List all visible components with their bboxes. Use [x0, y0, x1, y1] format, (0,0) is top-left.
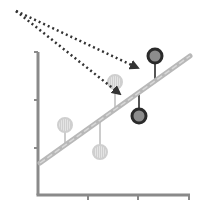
dotted-arrow [16, 11, 138, 68]
data-points [58, 49, 162, 159]
dotted-arrow [16, 11, 120, 94]
highlighted-data-point [132, 109, 146, 123]
data-point [58, 118, 72, 132]
highlighted-data-point [148, 49, 162, 63]
data-point [93, 145, 107, 159]
regression-plot [0, 0, 207, 210]
regression-line [40, 56, 190, 163]
regression-line-texture [40, 56, 190, 163]
regression-diagram [0, 0, 207, 210]
